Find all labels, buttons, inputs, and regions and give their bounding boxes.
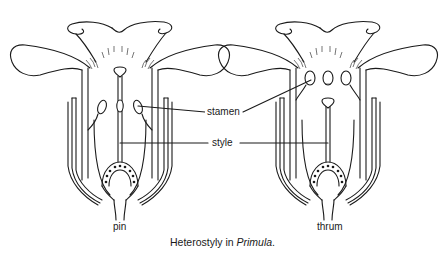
caption-prefix: Heterostyly in	[170, 236, 237, 248]
pin-flower	[11, 21, 230, 220]
flower-illustrations	[0, 0, 445, 253]
thrum-label: thrum	[315, 222, 345, 232]
caption-genus: Primula	[237, 236, 273, 248]
thrum-flower	[219, 21, 438, 220]
stamen-label: stamen	[205, 107, 242, 117]
heterostyly-diagram: stamen style pin thrum Heterostyly in Pr…	[0, 0, 445, 253]
style-label: style	[210, 138, 235, 148]
stamen-leader-thrum	[243, 80, 311, 112]
pin-label: pin	[111, 222, 128, 232]
figure-caption: Heterostyly in Primula.	[0, 236, 445, 248]
caption-suffix: .	[272, 236, 275, 248]
